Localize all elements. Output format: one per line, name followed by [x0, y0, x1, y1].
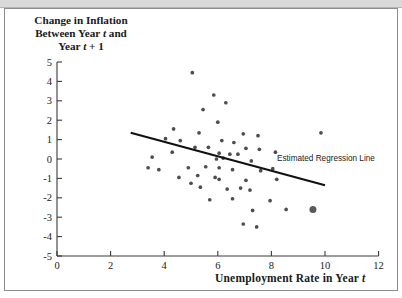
figure-container: Change in Inflation Between Year t and Y… [0, 0, 402, 298]
data-point [244, 178, 248, 182]
data-point [284, 208, 288, 212]
x-axis-tick-label: 4 [162, 260, 168, 271]
data-point [190, 71, 194, 75]
data-point [249, 159, 253, 163]
data-points-group [146, 71, 323, 229]
data-point [268, 199, 272, 203]
data-point [216, 120, 220, 124]
data-point [232, 141, 236, 145]
y-axis-tick-label: 5 [47, 57, 52, 68]
data-point [319, 131, 323, 135]
data-point [241, 132, 245, 136]
y-axis-tick-label: -1 [43, 173, 52, 184]
y-axis-tick-label: -2 [43, 192, 52, 203]
data-point [215, 157, 219, 161]
data-point [259, 169, 263, 173]
x-axis-tick-label: 6 [215, 260, 220, 271]
data-point [177, 176, 181, 180]
data-point [244, 146, 248, 150]
data-point [193, 146, 197, 150]
data-point [186, 166, 190, 170]
data-point [274, 150, 278, 154]
data-point [197, 131, 201, 135]
data-point [172, 127, 176, 131]
data-point [164, 137, 168, 141]
data-point [146, 166, 150, 170]
x-axis-tick-label: 10 [320, 260, 331, 271]
data-point [225, 187, 229, 191]
data-point [157, 168, 161, 172]
data-point [189, 181, 193, 185]
data-point [199, 185, 203, 189]
data-point [236, 152, 240, 156]
data-point [170, 150, 174, 154]
y-axis-tick-label: 4 [47, 76, 53, 87]
data-point [256, 134, 260, 138]
data-point [275, 178, 279, 182]
y-axis-tick-label: 0 [47, 154, 52, 165]
data-point [251, 209, 255, 213]
data-point [241, 222, 245, 226]
data-point [150, 155, 154, 159]
data-point [217, 151, 221, 155]
x-axis-tick-label: 12 [373, 260, 384, 271]
y-axis-tick-label: 3 [47, 95, 52, 106]
data-point [228, 152, 232, 156]
data-point [196, 174, 200, 178]
data-point [207, 146, 211, 150]
data-point [208, 198, 212, 202]
y-axis-tick-label: -4 [43, 231, 52, 242]
data-point [220, 139, 224, 143]
data-point [178, 139, 182, 143]
y-axis-tick-label: -5 [43, 251, 52, 262]
regression-line [131, 133, 325, 185]
y-axis-tick-label: 2 [47, 115, 52, 126]
regression-line-group [131, 133, 325, 185]
data-point [255, 225, 259, 229]
scatter-plot: -5-4-3-2-1012345024681012 [0, 0, 402, 298]
y-axis-tick-label: 1 [47, 134, 52, 145]
x-axis-tick-label: 0 [54, 260, 59, 271]
data-point [224, 101, 228, 105]
axes-group: -5-4-3-2-1012345024681012 [43, 57, 384, 271]
data-point [212, 93, 216, 97]
x-axis-tick-label: 2 [108, 260, 113, 271]
highlighted-data-point [309, 206, 316, 213]
data-point [248, 188, 252, 192]
y-axis-tick-label: -3 [43, 212, 52, 223]
data-point [213, 176, 217, 180]
data-point [231, 197, 235, 201]
data-point [239, 186, 243, 190]
data-point [231, 168, 235, 172]
data-point [217, 178, 221, 182]
data-point [204, 165, 208, 169]
data-point [217, 166, 221, 170]
data-point [257, 147, 261, 151]
data-point [201, 108, 205, 112]
x-axis-tick-label: 8 [269, 260, 274, 271]
